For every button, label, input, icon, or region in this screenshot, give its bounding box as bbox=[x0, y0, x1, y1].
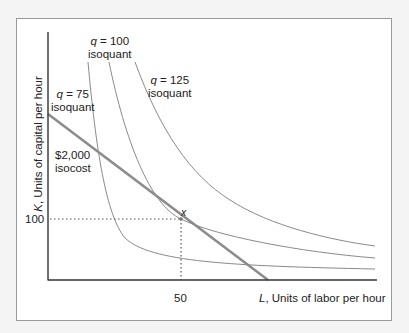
q100-label: q = 100 isoquant bbox=[88, 35, 131, 61]
isocost-line bbox=[48, 114, 268, 280]
q125-label: q = 125 isoquant bbox=[148, 74, 191, 100]
y-axis-title: K, Units of capital per hour bbox=[32, 76, 44, 212]
isocost-label: $2,000 isocost bbox=[55, 149, 91, 175]
q75-label: q = 75 isoquant bbox=[51, 88, 94, 114]
x-tick-50: 50 bbox=[174, 292, 187, 305]
isoquant-q75 bbox=[88, 62, 375, 269]
x-axis-title: L, Units of labor per hour bbox=[259, 292, 386, 305]
y-tick-100: 100 bbox=[25, 213, 44, 226]
point-x-label: x bbox=[181, 206, 186, 219]
